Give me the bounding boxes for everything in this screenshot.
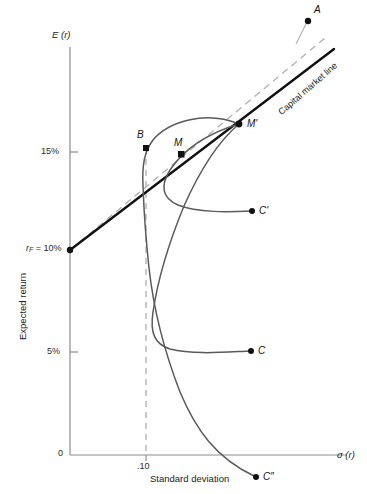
point-C-double-prime-label: C″ [263,472,274,482]
point-C-prime-marker [249,208,255,214]
point-B-marker [143,145,149,151]
point-B-label: B [137,130,144,140]
point-C-prime-label: C' [259,206,268,216]
y-tick-label-0: 0 [58,449,63,458]
y-tick-label-5: 5% [47,347,60,356]
point-A-marker [305,18,311,24]
point-M-label: M [174,138,182,148]
y-axis-symbol: E (r) [52,30,70,40]
capital-market-line [70,49,334,250]
point-C-double-prime-marker [253,474,259,480]
x-axis-symbol: σ (r) [337,450,355,460]
point-A-leader-line [296,24,306,44]
frontier-curve-to-C [152,124,251,353]
axes-group [70,47,347,461]
rf-value: = 10% [33,243,61,253]
x-tick-label-10: .10 [137,462,150,471]
point-C-label: C [258,346,265,356]
y-tick-label-15: 15% [41,147,59,156]
point-C-marker [248,348,254,354]
point-A-label: A [314,5,321,15]
y-tick-label-rf: rF = 10% [26,244,62,253]
x-axis-title: Standard deviation [150,474,229,484]
y-axis-title: Expected return [18,273,28,340]
point-M-marker [178,151,185,158]
point-M-prime-marker [236,121,243,128]
point-M-prime-label: M' [247,119,257,129]
tangent-line-to-B [70,38,325,250]
efficient-frontier-BC [143,118,254,476]
capital-market-line-chart: E (r) Expected return 15% 5% 0 rF = 10% … [0,0,367,494]
point-rf-marker [67,247,73,253]
